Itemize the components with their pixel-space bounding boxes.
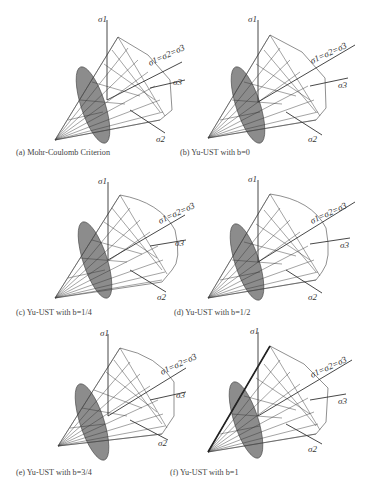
sigma2-axis (130, 110, 165, 133)
panel-d: σ1 σ1=σ2=σ3 σ3 σ2 (d) Yu-UST with b=1/2 (190, 160, 380, 320)
sigma1-label: σ1 (250, 326, 259, 336)
sigma3-label: σ3 (176, 390, 185, 400)
cone-outline (208, 35, 326, 138)
yield-surface-diagram: σ1 σ1=σ2=σ3 σ3 σ2 (0, 0, 190, 145)
panel-c: σ1 σ1=σ2=σ3 σ3 σ2 (c) Yu-UST with b=1/4 (0, 160, 190, 320)
panel-caption: (c) Yu-UST with b=1/4 (16, 308, 92, 317)
sigma1-label: σ1 (248, 174, 257, 184)
cone-outline (208, 346, 328, 452)
hydrostatic-label: σ1=σ2=σ3 (147, 42, 187, 68)
cone-grid (55, 37, 165, 140)
yield-surface-diagram: σ1 σ1=σ2=σ3 σ3 σ2 (0, 320, 190, 465)
sigma2-axis (130, 270, 166, 292)
panel-caption: (e) Yu-UST with b=3/4 (16, 468, 92, 477)
hydrostatic-axis (258, 360, 352, 416)
sigma1-label: σ1 (98, 14, 107, 24)
panel-b: σ1 σ1=σ2=σ3 σ3 σ2 (b) Yu-UST with b=0 (190, 0, 380, 160)
sigma2-label: σ2 (157, 292, 166, 302)
yield-surface-diagram: σ1 σ1=σ2=σ3 σ3 σ2 (0, 160, 190, 305)
panel-caption: (f) Yu-UST with b=1 (170, 468, 239, 477)
panel-caption: (a) Mohr-Coulomb Criterion (16, 148, 110, 157)
sigma2-label: σ2 (308, 134, 317, 144)
pi-plane-ellipse (71, 218, 119, 302)
sigma2-label: σ2 (308, 444, 317, 454)
hydrostatic-label: σ1=σ2=σ3 (309, 354, 349, 380)
sigma3-label: σ3 (173, 77, 182, 87)
sigma3-label: σ3 (175, 238, 184, 248)
sigma3-label: σ3 (338, 80, 347, 90)
panel-e: σ1 σ1=σ2=σ3 σ3 σ2 (e) Yu-UST with b=3/4 (0, 320, 190, 480)
panel-caption: (b) Yu-UST with b=0 (180, 148, 250, 157)
sigma2-label: σ2 (308, 292, 317, 302)
yield-surface-diagram: σ1 σ1=σ2=σ3 σ3 σ2 (190, 160, 380, 305)
yield-surface-diagram: σ1 σ1=σ2=σ3 σ3 σ2 (190, 320, 380, 465)
hydrostatic-label: σ1=σ2=σ3 (309, 40, 349, 66)
panel-a: σ1 σ1=σ2=σ3 σ3 σ2 (a) Mohr-Coulomb Crite… (0, 0, 190, 160)
panel-f: σ1 σ1=σ2=σ3 σ3 σ2 (f) Yu-UST with b=1 (190, 320, 380, 480)
yield-surface-diagram: σ1 σ1=σ2=σ3 σ3 σ2 (190, 0, 380, 145)
sigma2-label: σ2 (156, 134, 165, 144)
sigma1-label: σ1 (100, 328, 109, 338)
pi-plane-ellipse (222, 378, 270, 462)
cone-outline (208, 194, 328, 298)
hydrostatic-axis (108, 215, 185, 260)
sigma3-label: σ3 (340, 240, 349, 250)
sigma2-label: σ2 (158, 438, 167, 448)
hydrostatic-axis (258, 45, 355, 102)
sigma3-label: σ3 (338, 396, 347, 406)
sigma2-axis (286, 424, 322, 444)
sigma2-axis (286, 270, 322, 293)
hydrostatic-label: σ1=σ2=σ3 (309, 200, 349, 226)
sigma1-label: σ1 (248, 14, 257, 24)
sigma1-label: σ1 (98, 176, 107, 186)
cone-outline (55, 195, 178, 298)
panel-caption: (d) Yu-UST with b=1/2 (174, 308, 250, 317)
